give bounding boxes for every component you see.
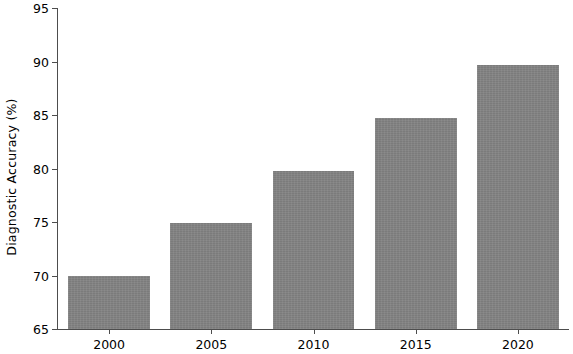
x-axis-tick: [314, 329, 315, 334]
x-axis-tick: [109, 329, 110, 334]
bar: [68, 276, 150, 330]
plot-area: 6570758085909520002005201020152020: [57, 8, 569, 330]
bar: [477, 65, 559, 329]
bar: [375, 118, 457, 329]
y-axis-tick-label: 65: [33, 322, 49, 337]
x-axis-tick: [518, 329, 519, 334]
x-axis-tick-label: 2015: [400, 337, 432, 352]
bar: [170, 223, 252, 329]
x-axis-tick-label: 2020: [502, 337, 534, 352]
bar-chart: Diagnostic Accuracy (%) 6570758085909520…: [0, 0, 573, 354]
bar: [273, 171, 355, 329]
x-axis-tick-label: 2005: [195, 337, 227, 352]
x-axis-tick: [211, 329, 212, 334]
y-axis-title: Diagnostic Accuracy (%): [0, 0, 22, 354]
y-axis-tick-label: 85: [33, 108, 49, 123]
y-axis-tick: [52, 62, 58, 63]
x-axis-tick-label: 2000: [93, 337, 125, 352]
y-axis-tick: [52, 8, 58, 9]
y-axis-tick: [52, 222, 58, 223]
x-axis-tick: [416, 329, 417, 334]
y-axis-tick: [52, 276, 58, 277]
y-axis-tick: [52, 329, 58, 330]
y-axis-tick-label: 70: [33, 268, 49, 283]
y-axis-tick: [52, 169, 58, 170]
y-axis-tick-label: 75: [33, 215, 49, 230]
y-axis-tick-label: 80: [33, 161, 49, 176]
x-axis-tick-label: 2010: [298, 337, 330, 352]
bars-layer: [58, 8, 569, 329]
y-axis-tick-label: 90: [33, 54, 49, 69]
y-axis-tick-label: 95: [33, 1, 49, 16]
y-axis-tick: [52, 115, 58, 116]
